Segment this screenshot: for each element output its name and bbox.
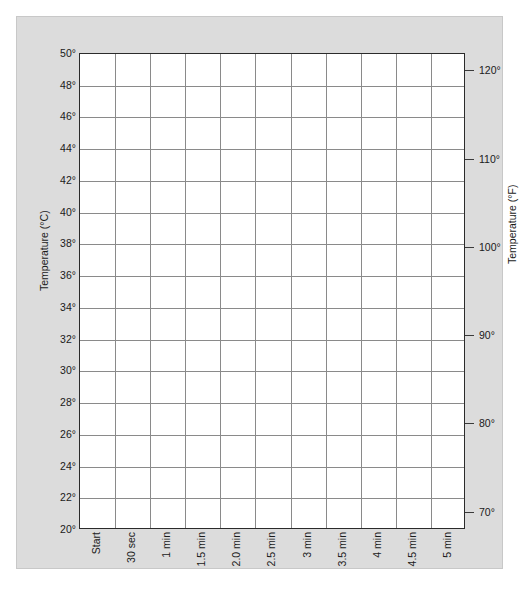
y-axis-left-tick-label: 20° (60, 523, 76, 535)
y-axis-left-tick-label: 40° (60, 206, 76, 218)
y-axis-left-tick-label: 22° (60, 491, 76, 503)
y-axis-right-tick-label: 110° (479, 153, 500, 165)
y-axis-right-tick-mark (465, 70, 474, 71)
x-axis-tick-label: 5 min (441, 532, 453, 558)
gridline-horizontal (80, 467, 464, 468)
gridline-horizontal (80, 276, 464, 277)
x-axis-tick-label: 30 sec (125, 532, 137, 563)
gridline-vertical (150, 54, 151, 528)
gridline-vertical (431, 54, 432, 528)
gridline-vertical (220, 54, 221, 528)
gridline-horizontal (80, 371, 464, 372)
y-axis-left-tick-label: 30° (60, 364, 76, 376)
x-axis-ticks: Start30 sec1 min1.5 min2.0 min2.5 min3 m… (79, 529, 465, 585)
gridline-vertical (291, 54, 292, 528)
y-axis-left-ticks: 20°22°24°26°28°30°32°34°36°38°40°42°44°4… (34, 53, 76, 529)
x-axis-tick-label: 3.5 min (336, 532, 348, 566)
gridline-vertical (115, 54, 116, 528)
gridline-vertical (255, 54, 256, 528)
gridline-vertical (326, 54, 327, 528)
y-axis-right-tick-mark (465, 159, 474, 160)
y-axis-left-tick-label: 48° (60, 79, 76, 91)
gridline-horizontal (80, 149, 464, 150)
y-axis-left-tick-label: 36° (60, 269, 76, 281)
gridline-vertical (396, 54, 397, 528)
gridline-horizontal (80, 244, 464, 245)
y-axis-right-tick-label: 120° (479, 64, 501, 76)
y-axis-left-tick-label: 46° (60, 110, 76, 122)
x-axis-tick-label: 3 min (301, 532, 313, 558)
y-axis-left-tick-label: 24° (60, 460, 76, 472)
y-axis-right-title: Temperature (°F) (506, 185, 518, 264)
gridline-horizontal (80, 403, 464, 404)
y-axis-right-tick-mark (465, 423, 474, 424)
y-axis-right-tick-label: 90° (479, 329, 495, 341)
x-axis-tick-label: 2.0 min (230, 532, 242, 566)
y-axis-right-tick-mark (465, 512, 474, 513)
gridline-horizontal (80, 181, 464, 182)
gridline-vertical (185, 54, 186, 528)
y-axis-left-tick-label: 38° (60, 237, 76, 249)
gridline-horizontal (80, 117, 464, 118)
y-axis-left-tick-label: 44° (60, 142, 76, 154)
chart-panel: 20°22°24°26°28°30°32°34°36°38°40°42°44°4… (17, 17, 502, 568)
gridline-horizontal (80, 213, 464, 214)
gridline-vertical (361, 54, 362, 528)
y-axis-right-ticks: 70°80°90°100°110°120° (465, 53, 519, 529)
gridline-horizontal (80, 498, 464, 499)
y-axis-left-tick-label: 32° (60, 333, 76, 345)
x-axis-tick-label: 4 min (371, 532, 383, 558)
y-axis-right-tick-mark (465, 247, 474, 248)
gridline-horizontal (80, 86, 464, 87)
y-axis-right-tick-label: 80° (479, 417, 495, 429)
y-axis-right-tick-label: 70° (479, 506, 495, 518)
y-axis-left-tick-label: 50° (60, 47, 76, 59)
x-axis-tick-label: 1.5 min (195, 532, 207, 566)
x-axis-tick-label: 4.5 min (406, 532, 418, 566)
y-axis-left-tick-label: 26° (60, 428, 76, 440)
y-axis-right-tick-mark (465, 335, 474, 336)
gridline-horizontal (80, 435, 464, 436)
y-axis-left-tick-label: 42° (60, 174, 76, 186)
y-axis-left-tick-label: 28° (60, 396, 76, 408)
gridline-horizontal (80, 340, 464, 341)
y-axis-right-tick-label: 100° (479, 241, 501, 253)
y-axis-left-title: Temperature (°C) (38, 210, 50, 291)
y-axis-left-tick-label: 34° (60, 301, 76, 313)
x-axis-tick-label: 1 min (160, 532, 172, 558)
plot-area (79, 53, 465, 529)
x-axis-tick-label: Start (90, 532, 102, 554)
gridlines (80, 54, 464, 528)
x-axis-tick-label: 2.5 min (265, 532, 277, 566)
gridline-horizontal (80, 308, 464, 309)
